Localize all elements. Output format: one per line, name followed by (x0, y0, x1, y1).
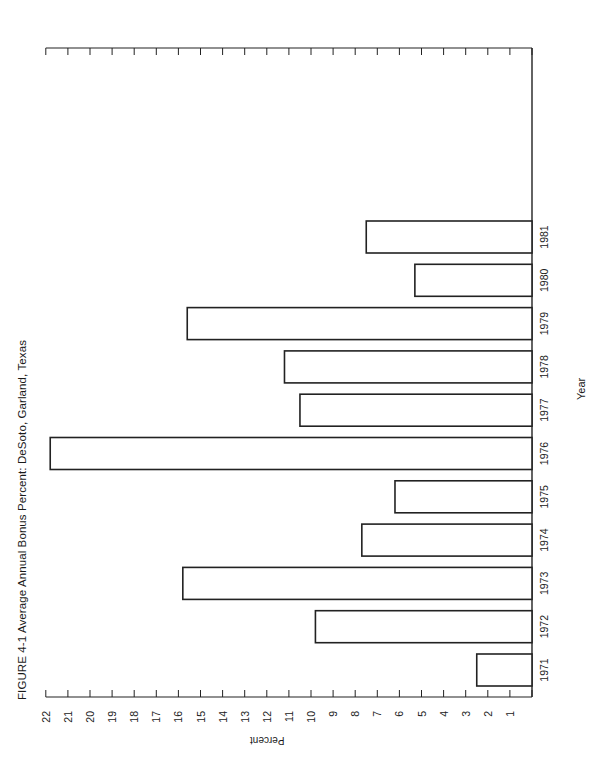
category-label: 1975 (538, 485, 550, 509)
bar-1979 (187, 308, 532, 340)
value-tick-label: 11 (283, 711, 295, 722)
value-tick-label: 7 (371, 711, 383, 717)
value-tick-label: 14 (217, 711, 229, 723)
value-tick-label: 2 (482, 711, 494, 717)
value-tick-label: 22 (40, 711, 52, 723)
bar-1971 (477, 654, 532, 686)
category-label: 1973 (538, 572, 550, 596)
value-tick-label: 9 (327, 711, 339, 717)
plot-area: 1234567891011121314151617181920212219711… (0, 0, 596, 777)
value-tick-label: 8 (349, 711, 361, 717)
value-tick-label: 17 (150, 711, 162, 723)
value-tick-label: 12 (261, 711, 273, 723)
value-tick-label: 3 (460, 711, 472, 717)
bar-1977 (300, 394, 532, 426)
category-label: 1972 (538, 615, 550, 639)
category-label: 1971 (538, 658, 550, 682)
bar-1974 (362, 524, 532, 556)
value-tick-label: 20 (84, 711, 96, 723)
bar-1980 (415, 264, 532, 296)
bar-1976 (50, 438, 532, 470)
category-label: 1978 (538, 355, 550, 379)
category-label: 1976 (538, 442, 550, 466)
bar-1972 (315, 611, 532, 643)
category-label: 1977 (538, 398, 550, 422)
value-tick-label: 10 (305, 711, 317, 723)
bar-1978 (284, 351, 532, 383)
value-tick-label: 16 (172, 711, 184, 723)
category-label: 1981 (538, 225, 550, 249)
bar-1973 (183, 567, 532, 599)
category-label: 1979 (538, 312, 550, 336)
bar-1975 (395, 481, 532, 513)
value-tick-label: 13 (239, 711, 251, 723)
value-tick-label: 1 (504, 711, 516, 717)
value-tick-label: 18 (128, 711, 140, 723)
value-tick-label: 21 (62, 711, 74, 723)
bar-1981 (366, 221, 532, 253)
bar-chart: FIGURE 4-1 Average Annual Bonus Percent:… (0, 0, 596, 777)
value-tick-label: 15 (195, 711, 207, 723)
category-label: 1980 (538, 268, 550, 292)
value-tick-label: 5 (416, 711, 428, 717)
category-label: 1974 (538, 528, 550, 552)
value-tick-label: 4 (438, 711, 450, 717)
value-tick-label: 19 (106, 711, 118, 723)
value-tick-label: 6 (393, 711, 405, 717)
